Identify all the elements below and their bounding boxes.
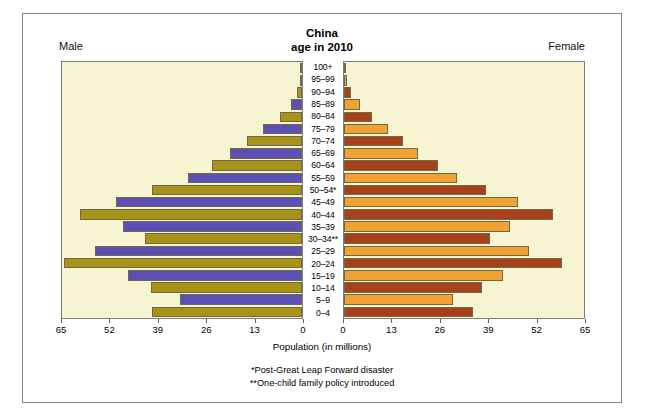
bar-row (344, 172, 584, 184)
axis-tick (488, 319, 489, 323)
female-bar (344, 209, 553, 219)
footnotes: *Post-Great Leap Forward disaster **One-… (23, 364, 621, 389)
female-bar (344, 185, 486, 195)
axis-tick (391, 319, 392, 323)
bar-row (62, 123, 302, 135)
age-group-label: 75–79 (303, 122, 343, 134)
bar-row (344, 135, 584, 147)
bar-row (344, 269, 584, 281)
chart-title: China age in 2010 (23, 26, 621, 54)
axis-tick-label: 0 (300, 324, 305, 335)
female-bar (344, 148, 418, 158)
axis-tick-label: 13 (249, 324, 260, 335)
axis-tick-label: 26 (201, 324, 212, 335)
bar-row (344, 160, 584, 172)
axis-tick (303, 319, 304, 323)
bar-row (344, 99, 584, 111)
female-bar (344, 282, 482, 292)
male-bar (188, 173, 302, 183)
age-group-label: 25–29 (303, 245, 343, 257)
chart-title-line2: age in 2010 (23, 40, 621, 54)
bar-row (344, 123, 584, 135)
female-bar (344, 307, 473, 317)
axis-tick-label: 52 (531, 324, 542, 335)
male-bar-rows (62, 62, 302, 318)
male-bar (64, 258, 302, 268)
axis-tick (585, 319, 586, 323)
chart-figure: China age in 2010 Male Female 100+95–999… (22, 13, 622, 403)
female-bar (344, 112, 372, 122)
female-plot-panel (343, 61, 585, 319)
male-bar (123, 221, 302, 231)
bar-row (344, 147, 584, 159)
footnote-1: *Post-Great Leap Forward disaster (23, 364, 621, 377)
bar-row (344, 208, 584, 220)
age-group-label: 55–59 (303, 172, 343, 184)
age-group-label: 60–64 (303, 159, 343, 171)
male-bar (128, 270, 302, 280)
female-bar (344, 270, 503, 280)
bar-row (62, 269, 302, 281)
age-group-label: 35–39 (303, 221, 343, 233)
female-bar (344, 233, 490, 243)
female-bar-rows (344, 62, 584, 318)
male-bar (95, 246, 302, 256)
bar-row (62, 172, 302, 184)
female-bar (344, 75, 347, 85)
axis-tick (343, 319, 344, 323)
male-bar (300, 63, 302, 73)
age-group-label: 65–69 (303, 147, 343, 159)
male-bar (291, 99, 302, 109)
age-group-axis: 100+95–9990–9485–8980–8475–7970–7465–696… (303, 61, 343, 319)
male-bar (300, 75, 302, 85)
axis-tick-label: 0 (340, 324, 345, 335)
footnote-2: **One-child family policy introduced (23, 377, 621, 390)
bar-row (62, 281, 302, 293)
age-group-label: 10–14 (303, 282, 343, 294)
female-bar (344, 124, 388, 134)
axis-tick-label: 65 (56, 324, 67, 335)
male-bar (263, 124, 302, 134)
male-bar (152, 185, 302, 195)
female-bar (344, 258, 562, 268)
bar-row (62, 62, 302, 74)
chart-title-line1: China (23, 26, 621, 40)
axis-tick (206, 319, 207, 323)
bar-row (344, 233, 584, 245)
age-group-label: 20–24 (303, 258, 343, 270)
age-group-label: 15–19 (303, 270, 343, 282)
bar-row (62, 184, 302, 196)
male-value-axis: 65523926130 (61, 319, 303, 341)
male-plot-panel (61, 61, 303, 319)
female-axis-label: Female (548, 40, 585, 52)
age-group-label: 70–74 (303, 135, 343, 147)
bar-row (62, 306, 302, 318)
male-bar (297, 87, 302, 97)
male-bar (247, 136, 302, 146)
bar-row (62, 74, 302, 86)
axis-tick-label: 13 (386, 324, 397, 335)
axis-tick (158, 319, 159, 323)
age-group-label: 90–94 (303, 86, 343, 98)
male-bar (230, 148, 302, 158)
bar-row (62, 208, 302, 220)
axis-tick-label: 52 (104, 324, 115, 335)
female-bar (344, 173, 457, 183)
age-group-label: 45–49 (303, 196, 343, 208)
bar-row (62, 135, 302, 147)
bar-row (344, 62, 584, 74)
male-bar (116, 197, 302, 207)
age-group-label: 30–34** (303, 233, 343, 245)
bar-row (344, 306, 584, 318)
female-bar (344, 63, 346, 73)
age-group-label: 100+ (303, 61, 343, 73)
female-bar (344, 160, 438, 170)
age-group-label: 85–89 (303, 98, 343, 110)
bar-row (62, 99, 302, 111)
age-group-label: 50–54* (303, 184, 343, 196)
bar-row (62, 220, 302, 232)
male-bar (212, 160, 302, 170)
male-bar (280, 112, 302, 122)
bar-row (344, 86, 584, 98)
bar-row (62, 233, 302, 245)
